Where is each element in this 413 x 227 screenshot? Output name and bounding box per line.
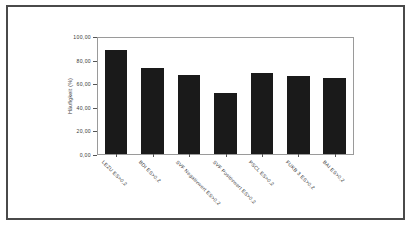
bar-slot	[317, 38, 353, 154]
y-axis-tick-label: 80,00	[77, 58, 92, 64]
bar-slot	[207, 38, 243, 154]
x-axis-tick	[335, 154, 336, 157]
y-axis-tick-label: 20,00	[77, 128, 92, 134]
bar	[141, 68, 164, 154]
x-axis-tick	[116, 154, 117, 157]
figure-outer-border: Häufigkeit (%) 0,0020,0040,0060,0080,001…	[6, 5, 405, 220]
plot-area-wrapper: Häufigkeit (%) 0,0020,0040,0060,0080,001…	[8, 7, 403, 218]
x-axis-tick	[298, 154, 299, 157]
bar-series	[98, 38, 353, 154]
x-axis-tick	[153, 154, 154, 157]
y-axis-tick-label: 100,00	[73, 34, 91, 40]
y-axis-tick-label: 60,00	[77, 81, 92, 87]
bar	[323, 78, 346, 154]
x-axis-tick	[226, 154, 227, 157]
bar	[251, 73, 274, 154]
bar-slot	[280, 38, 316, 154]
bar	[105, 50, 128, 154]
y-axis-tick-label: 40,00	[77, 105, 92, 111]
x-axis-tick-label: PSCL ES>0,2	[248, 159, 276, 187]
bar	[287, 76, 310, 154]
y-axis-title: Häufigkeit (%)	[65, 37, 75, 155]
y-axis-tick-label: 0,00	[80, 152, 91, 158]
bar-slot	[134, 38, 170, 154]
plot-panel	[97, 37, 354, 155]
x-axis-tick-label: LEZU ES>0,2	[101, 159, 129, 187]
x-axis-tick-label: BDI ES>0,2	[138, 159, 163, 184]
chart-figure: Häufigkeit (%) 0,0020,0040,0060,0080,001…	[0, 0, 413, 227]
bar-slot	[98, 38, 134, 154]
x-axis-tick-label: BAI ES>0,2	[321, 159, 345, 183]
bar-slot	[171, 38, 207, 154]
bar-slot	[244, 38, 280, 154]
x-axis-tick	[189, 154, 190, 157]
y-axis-tick	[93, 155, 97, 156]
x-axis-tick	[262, 154, 263, 157]
bar	[214, 93, 237, 154]
x-axis-tick-label: FUKB 3 ES>0,2	[285, 159, 317, 191]
x-axis-tick-labels: LEZU ES>0,2BDI ES>0,2SVF Negativwert ES>…	[97, 159, 354, 227]
bar	[178, 75, 201, 154]
y-axis-title-text: Häufigkeit (%)	[67, 78, 73, 114]
